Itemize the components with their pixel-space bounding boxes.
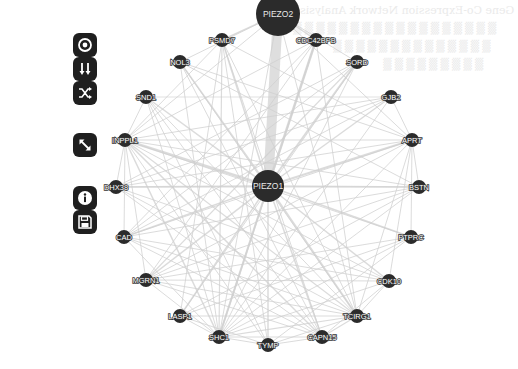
resize-button[interactable] (73, 133, 97, 157)
save-button[interactable] (73, 210, 97, 234)
node-label: TYMP (258, 341, 279, 350)
hub-label: PIEZO1 (253, 181, 284, 191)
node-cdc42bpb[interactable]: CDC42BPB (296, 33, 336, 47)
node-label: CAD (116, 233, 132, 242)
node-label: GJB2 (382, 93, 401, 102)
node-capn15[interactable]: CAPN15 (307, 330, 336, 344)
node-label: SND1 (136, 93, 156, 102)
node-label: SORD (346, 58, 368, 67)
edge (219, 140, 412, 337)
node-cad[interactable]: CAD (116, 230, 132, 244)
edge (389, 140, 412, 281)
node-label: DHX38 (104, 183, 128, 192)
edge (357, 140, 412, 316)
node-label: APRT (402, 136, 422, 145)
node-label: CDC42BPB (296, 36, 336, 45)
hub-node-piezo1[interactable]: PIEZO1 (252, 170, 284, 202)
edge (268, 237, 411, 345)
node-label: PSMD7 (209, 36, 235, 45)
info-icon (77, 190, 93, 206)
node-label: TCIRG1 (343, 312, 371, 321)
edge (116, 140, 125, 187)
node-sord[interactable]: SORD (346, 55, 368, 69)
node-label: CAPN15 (307, 333, 336, 342)
target-icon (77, 37, 93, 53)
center-focus-button[interactable] (73, 33, 97, 57)
node-nol3[interactable]: NOL3 (170, 55, 190, 69)
double-arrow-down-icon (77, 61, 93, 77)
node-aprt[interactable]: APRT (402, 133, 422, 147)
hub-node-piezo2[interactable]: PIEZO2 (256, 0, 300, 36)
edge (278, 14, 357, 316)
edge (412, 140, 419, 187)
sort-layout-button[interactable] (73, 57, 97, 81)
node-label: PTPRC (398, 233, 424, 242)
node-label: MGRN1 (132, 276, 159, 285)
edge (125, 14, 278, 140)
edge (146, 280, 219, 337)
node-label: INPPL1 (112, 136, 138, 145)
shuffle-layout-button[interactable] (73, 81, 97, 105)
edge (125, 97, 391, 140)
node-cdk10[interactable]: CDK10 (377, 274, 401, 288)
edge (116, 97, 391, 187)
shuffle-icon (77, 85, 93, 101)
node-label: SHC1 (209, 333, 229, 342)
node-label: CDK10 (377, 277, 401, 286)
floppy-disk-icon (77, 214, 93, 230)
node-mgrn1[interactable]: MGRN1 (132, 273, 159, 287)
edge (219, 187, 419, 337)
node-label: LASP1 (168, 312, 191, 321)
node-tymp[interactable]: TYMP (258, 338, 279, 352)
hub-label: PIEZO2 (263, 9, 294, 19)
diagonal-resize-icon (77, 137, 93, 153)
node-label: NOL3 (170, 58, 190, 67)
nodes-layer: PSMD7CDC42BPBNOL3SORDSND1GJB2INPPL1APRTD… (104, 0, 429, 352)
edge (125, 97, 146, 140)
node-label: BSTN (409, 183, 429, 192)
info-button[interactable] (73, 186, 97, 210)
node-shc1[interactable]: SHC1 (209, 330, 229, 344)
node-tcirg1[interactable]: TCIRG1 (343, 309, 371, 323)
edge (146, 280, 389, 281)
